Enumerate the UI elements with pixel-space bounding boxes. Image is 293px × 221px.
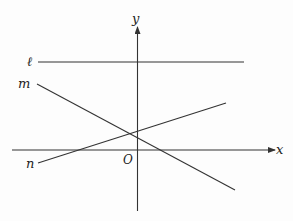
origin-label: O	[123, 153, 133, 167]
line-m-label: m	[18, 76, 30, 91]
x-axis-label: x	[276, 142, 284, 157]
y-axis-label: y	[131, 11, 140, 26]
line-m	[37, 84, 235, 190]
diagram-canvas: y x O ℓ m n	[0, 0, 293, 221]
line-l-label: ℓ	[27, 54, 33, 69]
line-n-label: n	[26, 156, 34, 171]
coordinate-diagram: y x O ℓ m n	[0, 0, 293, 221]
